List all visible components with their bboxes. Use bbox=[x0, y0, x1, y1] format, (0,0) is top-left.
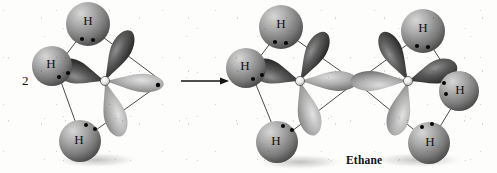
hydrogen-label: H bbox=[455, 82, 464, 97]
reaction-arrow bbox=[181, 77, 229, 84]
electron-dot bbox=[84, 123, 88, 127]
ethane-hydrogen-bottom-left: H bbox=[256, 121, 298, 163]
ground-shadows bbox=[52, 152, 466, 170]
electron-dot bbox=[80, 37, 84, 41]
hydrogen-label: H bbox=[83, 13, 92, 28]
unpaired-electron-dot bbox=[156, 83, 160, 87]
hydrogen-label: H bbox=[276, 16, 285, 31]
electron-dot bbox=[260, 73, 264, 77]
methyl-radical-molecule: H H H bbox=[32, 2, 164, 162]
electron-dot bbox=[251, 77, 255, 81]
ethane-hydrogen-left: H bbox=[226, 48, 266, 88]
electron-dot bbox=[426, 45, 430, 49]
electron-dot bbox=[57, 75, 61, 79]
electron-dot bbox=[430, 122, 434, 126]
electron-dot bbox=[284, 41, 288, 45]
ethane-hydrogen-top-left: H bbox=[259, 5, 303, 49]
ethane-molecule: H H H H bbox=[226, 5, 479, 164]
electron-dot bbox=[442, 81, 446, 85]
coefficient-label: 2 bbox=[22, 73, 29, 89]
electron-dot bbox=[420, 125, 424, 129]
electron-dot bbox=[91, 38, 95, 42]
ethane-carbon-right-center bbox=[403, 76, 412, 85]
ethane-hydrogen-top-right: H bbox=[401, 9, 445, 53]
figure-caption: Ethane bbox=[346, 154, 382, 166]
ethane-formation-figure: H H H bbox=[0, 0, 497, 173]
hydrogen-label: H bbox=[418, 20, 427, 35]
electron-dot bbox=[444, 92, 448, 96]
sp3-orbital-right-unpaired bbox=[105, 72, 165, 94]
hydrogen-atom-left: H bbox=[32, 46, 72, 86]
hydrogen-atom-top: H bbox=[66, 2, 110, 46]
ethane-hydrogen-bottom-right: H bbox=[408, 122, 450, 164]
ethane-carbon-left-center bbox=[295, 76, 304, 85]
electron-dot bbox=[290, 128, 294, 132]
carbon-atom-center bbox=[100, 76, 109, 85]
electron-dot bbox=[415, 44, 419, 48]
ethane-hydrogen-right: H bbox=[439, 71, 479, 111]
electron-dot bbox=[66, 71, 70, 75]
hydrogen-label: H bbox=[46, 56, 55, 71]
hydrogen-label: H bbox=[271, 133, 280, 148]
hydrogen-atom-bottom: H bbox=[59, 120, 101, 162]
carbon-carbon-sigma-bond bbox=[300, 71, 408, 91]
hydrogen-label: H bbox=[425, 134, 434, 149]
electron-dot bbox=[273, 40, 277, 44]
electron-dot bbox=[93, 127, 97, 131]
hydrogen-label: H bbox=[74, 132, 83, 147]
hydrogen-label: H bbox=[240, 58, 249, 73]
electron-dot bbox=[281, 124, 285, 128]
